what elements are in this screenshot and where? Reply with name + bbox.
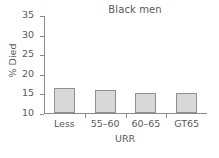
x-axis-category-label: Less <box>54 118 75 129</box>
x-axis-category-label: GT65 <box>174 118 199 129</box>
x-axis-tick <box>85 114 86 118</box>
x-axis-category-label: 55–60 <box>91 118 120 129</box>
plot-area: 101520253035 Less55–6060–65GT65 <box>44 16 207 114</box>
y-axis-tick-label: 15 <box>22 87 34 98</box>
y-axis-tick: 30 <box>40 36 44 37</box>
bar <box>54 88 75 113</box>
bar <box>135 93 156 113</box>
y-axis-tick-label: 30 <box>22 29 34 40</box>
x-axis-category-label: 60–65 <box>131 118 160 129</box>
bar <box>95 90 116 113</box>
y-axis-tick: 35 <box>40 16 44 17</box>
y-axis-tick: 25 <box>40 55 44 56</box>
bar <box>176 93 197 113</box>
x-axis-tick <box>126 114 127 118</box>
x-axis-tick <box>166 114 167 118</box>
y-axis-tick-label: 25 <box>22 48 34 59</box>
chart-title: Black men <box>60 4 210 15</box>
y-axis-label: % Died <box>7 38 18 84</box>
chart-figure: Black men % Died 101520253035 Less55–606… <box>0 0 219 158</box>
y-axis-tick: 20 <box>40 75 44 76</box>
y-axis-tick: 15 <box>40 94 44 95</box>
y-axis-tick-label: 10 <box>22 107 34 118</box>
y-axis-tick-label: 35 <box>22 9 34 20</box>
y-axis-tick: 10 <box>40 114 44 115</box>
y-axis-tick-label: 20 <box>22 68 34 79</box>
y-axis-spine <box>44 16 45 114</box>
x-axis-label: URR <box>40 133 210 144</box>
